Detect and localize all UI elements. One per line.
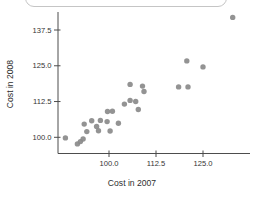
data-point bbox=[127, 82, 132, 87]
y-tick-label: 125.0 bbox=[32, 61, 51, 70]
x-tick-label: 100.0 bbox=[99, 159, 118, 168]
data-point bbox=[107, 128, 112, 133]
data-point bbox=[116, 121, 121, 126]
data-point bbox=[127, 98, 132, 103]
x-tick-label: 125.0 bbox=[193, 159, 212, 168]
data-point bbox=[184, 58, 189, 63]
data-point bbox=[200, 64, 205, 69]
data-point bbox=[230, 15, 235, 20]
scatter-chart: 100.0112.5125.0137.5125.0112.5100.0 Cost… bbox=[0, 0, 257, 198]
tick-marks bbox=[54, 30, 203, 157]
data-point bbox=[122, 101, 127, 106]
data-point bbox=[136, 107, 141, 112]
x-axis-title: Cost in 2007 bbox=[108, 178, 156, 188]
data-point bbox=[104, 119, 109, 124]
data-point bbox=[133, 99, 138, 104]
data-point bbox=[82, 121, 87, 126]
data-point bbox=[80, 136, 85, 141]
data-point bbox=[63, 135, 68, 140]
scatter-plot-canvas: 100.0112.5125.0137.5125.0112.5100.0 Cost… bbox=[0, 0, 257, 198]
data-point bbox=[141, 89, 146, 94]
data-point bbox=[84, 129, 89, 134]
data-point bbox=[140, 83, 145, 88]
data-point bbox=[89, 118, 94, 123]
data-point bbox=[176, 84, 181, 89]
screenshot-root: 100.0112.5125.0137.5125.0112.5100.0 Cost… bbox=[0, 0, 257, 198]
data-point bbox=[105, 109, 110, 114]
data-point bbox=[98, 118, 103, 123]
y-tick-label: 100.0 bbox=[32, 133, 51, 142]
data-point bbox=[110, 109, 115, 114]
x-tick-label: 112.5 bbox=[147, 159, 165, 168]
y-tick-label: 137.5 bbox=[32, 26, 51, 35]
y-tick-label: 112.5 bbox=[33, 97, 51, 106]
data-point bbox=[96, 128, 101, 133]
data-point bbox=[185, 84, 190, 89]
y-axis-title: Cost in 2008 bbox=[5, 60, 15, 108]
data-points bbox=[63, 15, 236, 147]
tick-labels: 100.0112.5125.0137.5125.0112.5100.0 bbox=[32, 26, 212, 168]
